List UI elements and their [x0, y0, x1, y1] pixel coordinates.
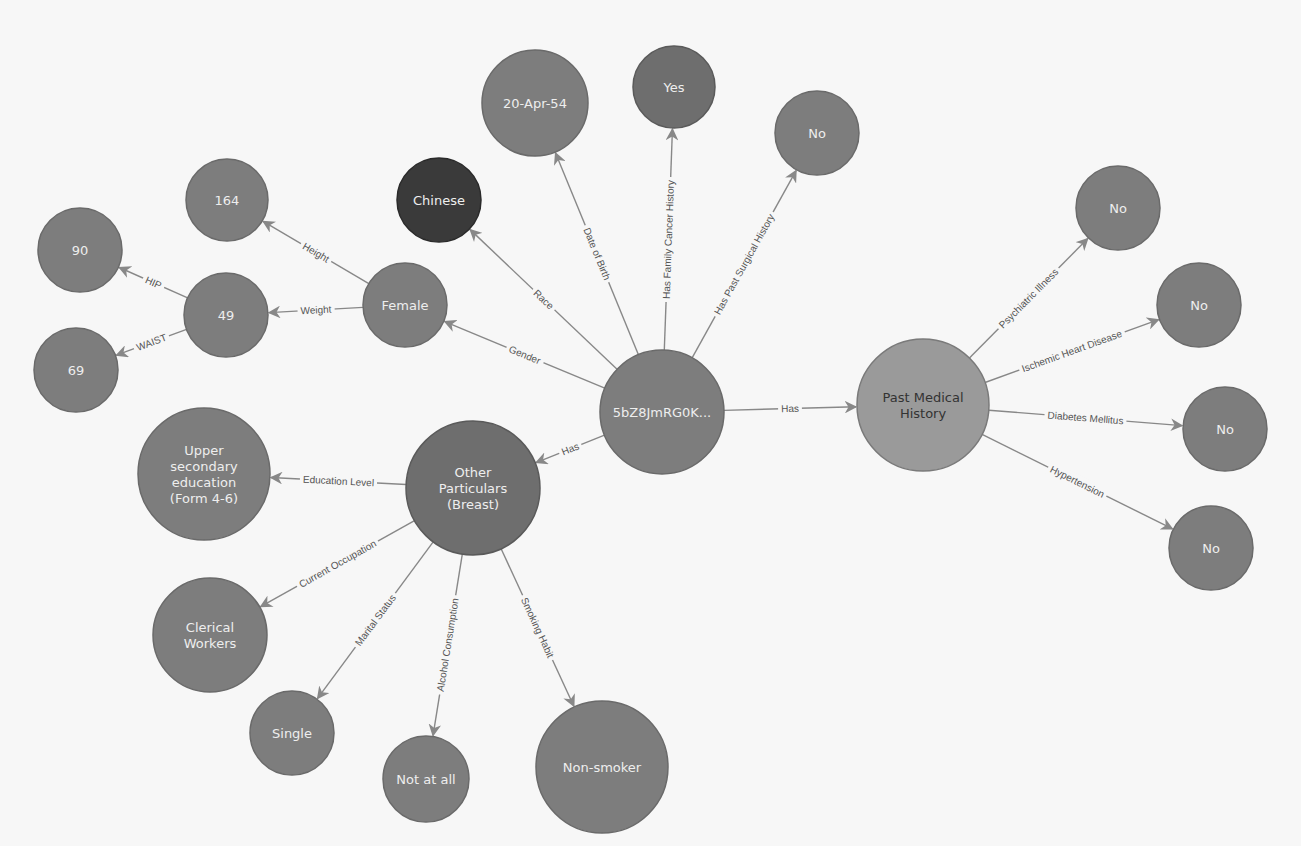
edge-patient-dob[interactable]: Date of Birth [556, 153, 639, 355]
node-circle[interactable] [536, 701, 668, 833]
node-psychiatric[interactable]: No [1076, 166, 1160, 250]
node-dob[interactable]: 20-Apr-54 [482, 50, 588, 156]
edge-pmh-hypertension[interactable]: Hypertension [982, 434, 1172, 529]
node-circle[interactable] [153, 578, 267, 692]
node-circle[interactable] [184, 273, 268, 357]
node-other[interactable]: OtherParticulars(Breast) [406, 421, 540, 555]
edge-other-smoking[interactable]: Smoking Habit [501, 549, 574, 706]
node-circle[interactable] [1076, 166, 1160, 250]
edge-label: WAIST [135, 332, 168, 353]
node-circle[interactable] [1183, 387, 1267, 471]
node-smoking[interactable]: Non-smoker [536, 701, 668, 833]
edge-label: Psychiatric Illness [997, 266, 1061, 330]
node-hypertension[interactable]: No [1169, 506, 1253, 590]
edge-patient-past_surgical[interactable]: Has Past Surgical History [692, 171, 796, 358]
edge-label: Height [301, 240, 332, 264]
edge-label: Weight [300, 304, 332, 317]
edge-patient-pmh[interactable]: Has [724, 402, 856, 416]
node-hip[interactable]: 90 [38, 208, 122, 292]
edge-label: Has [781, 403, 799, 414]
edge-label: Gender [507, 343, 543, 366]
edge-label: Marital Status [353, 592, 398, 648]
node-pmh[interactable]: Past MedicalHistory [857, 339, 989, 471]
node-circle[interactable] [600, 350, 724, 474]
node-circle[interactable] [633, 46, 715, 128]
edge-patient-family_cancer[interactable]: Has Family Cancer History [660, 129, 678, 350]
node-gender[interactable]: Female [363, 263, 447, 347]
node-circle[interactable] [38, 208, 122, 292]
node-diabetes[interactable]: No [1183, 387, 1267, 471]
edge-gender-weight[interactable]: Weight [269, 302, 363, 317]
knowledge-graph-canvas[interactable]: RaceDate of BirthHas Family Cancer Histo… [0, 0, 1301, 846]
edge-label: Smoking Habit [519, 596, 556, 660]
node-circle[interactable] [383, 736, 469, 822]
node-circle[interactable] [775, 91, 859, 175]
node-education[interactable]: Uppersecondaryeducation(Form 4-6) [138, 408, 270, 540]
node-height[interactable]: 164 [186, 159, 268, 241]
edge-label: Has Family Cancer History [661, 180, 676, 299]
node-circle[interactable] [34, 328, 118, 412]
node-circle[interactable] [857, 339, 989, 471]
edge-patient-other[interactable]: Has [536, 435, 604, 462]
edge-label: Alcohol Consumption [435, 597, 461, 692]
edge-other-education[interactable]: Education Level [271, 473, 406, 490]
node-circle[interactable] [397, 158, 481, 242]
node-marital[interactable]: Single [250, 691, 334, 775]
edge-patient-gender[interactable]: Gender [445, 322, 605, 389]
node-past_surgical[interactable]: No [775, 91, 859, 175]
edge-gender-height[interactable]: Height [263, 221, 369, 283]
node-occupation[interactable]: ClericalWorkers [153, 578, 267, 692]
node-circle[interactable] [186, 159, 268, 241]
node-circle[interactable] [1157, 263, 1241, 347]
edge-other-alcohol[interactable]: Alcohol Consumption [433, 554, 462, 735]
edge-weight-waist[interactable]: WAIST [116, 329, 186, 355]
node-circle[interactable] [406, 421, 540, 555]
edge-label: Hypertension [1048, 464, 1106, 500]
edge-pmh-psychiatric[interactable]: Psychiatric Illness [969, 239, 1087, 359]
node-circle[interactable] [250, 691, 334, 775]
edge-weight-hip[interactable]: HIP [119, 267, 187, 297]
node-weight[interactable]: 49 [184, 273, 268, 357]
edge-label: Has [560, 440, 581, 457]
node-ischemic[interactable]: No [1157, 263, 1241, 347]
node-race[interactable]: Chinese [397, 158, 481, 242]
node-waist[interactable]: 69 [34, 328, 118, 412]
edge-label: Date of Birth [581, 226, 612, 282]
node-family_cancer[interactable]: Yes [633, 46, 715, 128]
nodes-layer: 5bZ8JmRG0K...Chinese20-Apr-54YesNoFemale… [34, 46, 1267, 833]
edge-pmh-diabetes[interactable]: Diabetes Mellitus [989, 408, 1182, 427]
edge-label: Ischemic Heart Disease [1020, 328, 1123, 374]
node-patient[interactable]: 5bZ8JmRG0K... [600, 350, 724, 474]
edge-label: Current Occupation [297, 538, 378, 590]
node-circle[interactable] [1169, 506, 1253, 590]
node-circle[interactable] [363, 263, 447, 347]
node-circle[interactable] [138, 408, 270, 540]
node-circle[interactable] [482, 50, 588, 156]
node-alcohol[interactable]: Not at all [383, 736, 469, 822]
edge-label: Has Past Surgical History [712, 212, 777, 316]
edge-pmh-ischemic[interactable]: Ischemic Heart Disease [985, 320, 1159, 383]
